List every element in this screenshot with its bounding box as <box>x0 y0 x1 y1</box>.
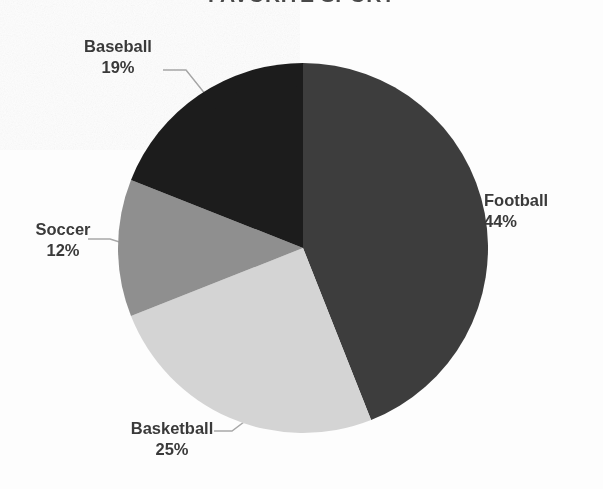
data-label-basketball: Basketball 25% <box>92 418 252 460</box>
data-label-football-value: 44% <box>484 211 594 232</box>
pie-slices-group <box>118 63 488 433</box>
data-label-basketball-value: 25% <box>92 439 252 460</box>
data-label-baseball-value: 19% <box>58 57 178 78</box>
data-label-soccer: Soccer 12% <box>8 219 118 261</box>
data-label-baseball-name: Baseball <box>58 36 178 57</box>
data-label-soccer-name: Soccer <box>8 219 118 240</box>
data-label-baseball: Baseball 19% <box>58 36 178 78</box>
data-label-basketball-name: Basketball <box>92 418 252 439</box>
pie-chart-figure: FAVORITE SPORT Baseball 19% Football 44%… <box>0 0 603 489</box>
data-label-soccer-value: 12% <box>8 240 118 261</box>
data-label-football: Football 44% <box>484 190 594 232</box>
data-label-football-name: Football <box>484 190 594 211</box>
